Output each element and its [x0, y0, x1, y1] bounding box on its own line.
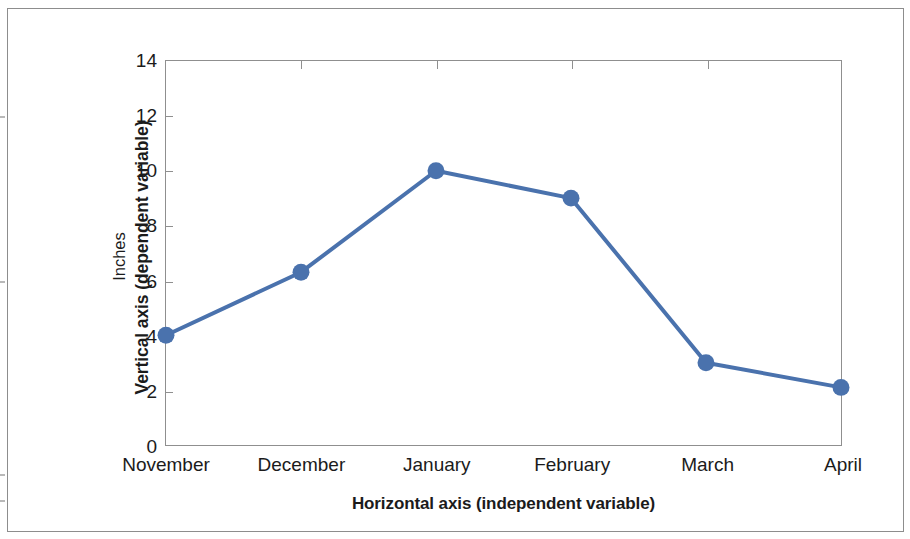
x-axis-tick-label: April	[824, 445, 862, 476]
x-axis-tick-label: March	[681, 445, 734, 476]
scan-artifact-mark	[0, 500, 5, 502]
x-axis-tick-label: January	[403, 445, 471, 476]
y-axis-tick-label: 2	[111, 381, 166, 403]
circle-marker-icon	[563, 190, 580, 207]
series-data-layer	[166, 61, 841, 445]
x-axis-tick-label: December	[258, 445, 346, 476]
y-axis-tick-label: 8	[111, 215, 166, 237]
x-axis-tick-label: November	[122, 445, 210, 476]
series-line	[166, 171, 841, 388]
circle-marker-icon	[833, 379, 850, 396]
x-axis-tick-label: February	[534, 445, 610, 476]
scan-artifact-mark	[0, 281, 5, 283]
circle-marker-icon	[428, 162, 445, 179]
scan-artifact-mark	[0, 474, 5, 476]
scan-artifact-mark	[0, 116, 5, 118]
y-axis-tick-label: 12	[111, 105, 166, 127]
y-axis-tick-label: 6	[111, 271, 166, 293]
circle-marker-icon	[158, 327, 175, 344]
y-axis-tick-label: 14	[111, 50, 166, 72]
plot-area: 14121086420 NovemberDecemberJanuaryFebru…	[165, 60, 842, 446]
horizontal-axis-title: Horizontal axis (independent variable)	[165, 494, 842, 514]
line-chart-figure: Vertical axis (dependent variable) Inche…	[0, 0, 910, 539]
circle-marker-icon	[293, 264, 310, 281]
series-marker-group	[158, 162, 850, 396]
y-axis-tick-label: 10	[111, 160, 166, 182]
circle-marker-icon	[698, 354, 715, 371]
vertical-axis-label: Inches	[110, 182, 129, 332]
